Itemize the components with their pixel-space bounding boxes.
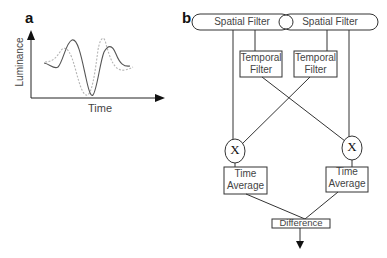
time-average-left-line1: Time — [224, 168, 267, 180]
spatial-filter-right: Spatial Filter — [292, 16, 368, 28]
time-average-left-line2: Average — [224, 180, 267, 192]
spatial-filter-left: Spatial Filter — [204, 16, 280, 28]
panel-b-label: b — [182, 9, 191, 26]
multiply-left-icon: X — [225, 144, 245, 156]
temporal-filter-right-line1: Temporal — [294, 52, 337, 64]
time-average-right-line2: Average — [326, 178, 368, 190]
temporal-filter-right-line2: Filter — [294, 64, 337, 76]
temporal-filter-left-line2: Filter — [240, 64, 282, 76]
difference-box: Difference — [272, 217, 330, 229]
y-axis-label: Luminance — [14, 37, 26, 87]
temporal-filter-left-line1: Temporal — [240, 52, 282, 64]
panel-b-diagram — [192, 14, 378, 249]
time-average-right-line1: Time — [326, 166, 368, 178]
multiply-right-icon: X — [342, 141, 362, 153]
x-axis-label: Time — [80, 102, 120, 114]
